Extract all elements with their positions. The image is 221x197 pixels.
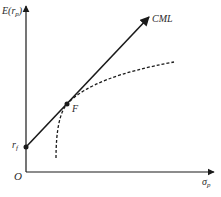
cml-diagram: E(rp) σp O rf F CML <box>0 0 221 197</box>
x-axis-label: σp <box>202 176 211 189</box>
market-portfolio-point <box>65 102 70 107</box>
risk-free-point <box>24 145 29 150</box>
y-axis-label: E(rp) <box>1 5 23 18</box>
origin-label: O <box>14 170 22 182</box>
market-portfolio-label: F <box>71 103 79 114</box>
risk-free-label: rf <box>12 139 19 152</box>
cml-label: CML <box>152 13 173 24</box>
cml-line <box>26 17 149 147</box>
